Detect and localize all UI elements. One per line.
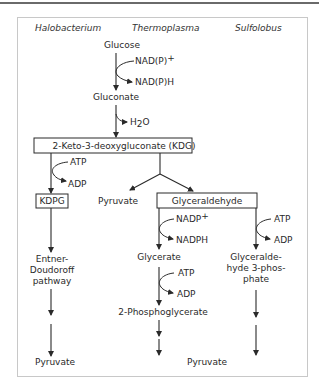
label-atp-halo: ATP — [70, 157, 87, 167]
label-ed-line3: pathway — [33, 276, 72, 286]
label-pyruvate-halo: Pyruvate — [35, 357, 76, 367]
pathway-diagram: Halobacterium Thermoplasma Sulfolobus Gl… — [0, 0, 321, 392]
label-pyruvate-thermo-sulfo: Pyruvate — [187, 357, 228, 367]
label-glycerate: Glycerate — [137, 252, 181, 262]
arrow-split-pyruvate — [130, 174, 160, 190]
label-kdpg: KDPG — [39, 196, 64, 206]
label-glyceraldehyde: Glyceraldehyde — [172, 196, 243, 206]
side-arrow-nadp — [116, 61, 134, 82]
side-arrow-atp-thermo — [159, 273, 174, 293]
label-atp-thermo: ATP — [178, 268, 195, 278]
label-adp-sulfo: ADP — [274, 235, 293, 245]
label-adp-thermo: ADP — [177, 289, 196, 299]
label-adp-halo: ADP — [68, 179, 87, 189]
label-sulfolobus: Sulfolobus — [235, 23, 282, 33]
label-nadp-plus-thermo: NADP+ — [176, 211, 209, 224]
side-arrow-nadp-thermo — [159, 219, 174, 239]
label-nadp-plus: NAD(P)+ — [135, 53, 175, 66]
label-pyruvate-direct: Pyruvate — [98, 196, 139, 206]
arrow-split-glyceraldehyde — [160, 174, 193, 191]
label-halobacterium: Halobacterium — [35, 23, 101, 33]
label-nadph: NAD(P)H — [135, 77, 174, 87]
side-arrow-atp-halo — [52, 162, 68, 181]
label-thermoplasma: Thermoplasma — [132, 23, 199, 33]
side-arrow-h2o — [116, 114, 127, 122]
label-ed-line1: Entner- — [36, 254, 69, 264]
label-g3p-line2: hyde 3-phos- — [227, 263, 286, 273]
label-kdg: 2-Keto-3-deoxygluconate (KDG) — [53, 141, 196, 151]
label-g3p-line3: phate — [243, 274, 269, 284]
label-h2o: H2O — [130, 117, 150, 129]
label-2-phosphoglycerate: 2-Phosphoglycerate — [118, 307, 208, 317]
label-ed-line2: Doudoroff — [30, 265, 75, 275]
label-g3p-line1: Glyceralde- — [230, 252, 282, 262]
label-gluconate: Gluconate — [93, 92, 139, 102]
label-glucose: Glucose — [104, 40, 140, 50]
label-nadph-thermo: NADPH — [176, 235, 208, 245]
label-atp-sulfo: ATP — [274, 214, 291, 224]
side-arrow-atp-sulfo — [256, 219, 271, 239]
